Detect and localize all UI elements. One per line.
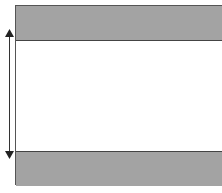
diagram-frame <box>15 5 222 185</box>
arrow-down-icon <box>5 151 14 159</box>
arrow-up-icon <box>5 29 14 37</box>
dimension-line <box>9 32 10 158</box>
bottom-gray-band <box>16 151 222 186</box>
top-gray-band <box>16 6 222 41</box>
